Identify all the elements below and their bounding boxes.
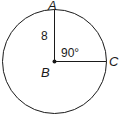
circle-diagram: A 8 90° B C (0, 0, 121, 118)
center-point-b (53, 60, 57, 64)
label-a: A (47, 0, 57, 13)
segment-label: 8 (41, 29, 48, 43)
label-b: B (41, 65, 50, 80)
label-c: C (109, 54, 119, 69)
angle-label: 90° (61, 46, 79, 60)
